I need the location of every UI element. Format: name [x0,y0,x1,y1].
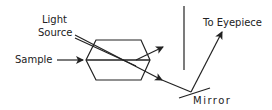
light-source-label-line1: Light [42,15,67,25]
mirror-label: Mirror [193,96,231,106]
ray-to-eyepiece [191,32,222,92]
light-ray-upper [75,38,136,66]
to-eyepiece-label: To Eyepiece [203,18,262,28]
sample-label: Sample [15,55,53,65]
ray-to-mirror [162,80,191,92]
optical-diagram: Light Source Sample To Eyepiece Mirror [0,0,272,110]
light-source-label-line2: Source [38,28,72,38]
